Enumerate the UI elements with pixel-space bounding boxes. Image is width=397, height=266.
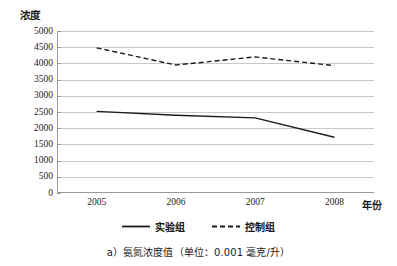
y-axis-tick-label: 3500 bbox=[9, 75, 53, 85]
series-layer bbox=[57, 31, 374, 193]
figure-caption: a）氨氮浓度值（单位：0.001 毫克/升） bbox=[0, 244, 397, 259]
series-line-control bbox=[97, 48, 335, 66]
chart-legend: 实验组 控制组 bbox=[0, 219, 397, 234]
y-axis-tick-label: 5000 bbox=[9, 27, 53, 37]
y-axis-tick-mark bbox=[57, 193, 61, 194]
chart-figure: 浓度 0500100015002000250030003500400045005… bbox=[0, 0, 397, 266]
y-axis-tick-label: 1000 bbox=[9, 156, 53, 166]
y-axis-tick-label: 2000 bbox=[9, 124, 53, 134]
x-axis-tick-label: 2007 bbox=[246, 198, 265, 208]
x-axis-tick-label: 2006 bbox=[166, 198, 185, 208]
legend-swatch-solid bbox=[122, 222, 150, 231]
y-axis-title: 浓度 bbox=[20, 7, 41, 22]
y-axis-tick-label: 4000 bbox=[9, 59, 53, 69]
y-axis-tick-label: 3000 bbox=[9, 91, 53, 101]
x-axis-tick-label: 2005 bbox=[87, 198, 106, 208]
x-axis-tick-label: 2008 bbox=[325, 198, 344, 208]
legend-label-experimental: 实验组 bbox=[155, 219, 186, 234]
x-axis-tick-labels: 2005200620072008 bbox=[57, 198, 374, 212]
legend-item-experimental: 实验组 bbox=[122, 219, 186, 234]
y-axis-tick-label: 4500 bbox=[9, 43, 53, 53]
legend-item-control: 控制组 bbox=[212, 219, 276, 234]
legend-label-control: 控制组 bbox=[245, 219, 276, 234]
y-axis-tick-label: 500 bbox=[9, 172, 53, 182]
y-axis-tick-labels: 0500100015002000250030003500400045005000 bbox=[5, 31, 53, 193]
y-axis-tick-label: 0 bbox=[9, 189, 53, 199]
y-axis-tick-label: 2500 bbox=[9, 108, 53, 118]
x-axis-title: 年份 bbox=[362, 197, 382, 212]
series-line-experimental bbox=[97, 111, 335, 137]
y-axis-tick-label: 1500 bbox=[9, 140, 53, 150]
legend-swatch-dashed bbox=[212, 222, 240, 231]
